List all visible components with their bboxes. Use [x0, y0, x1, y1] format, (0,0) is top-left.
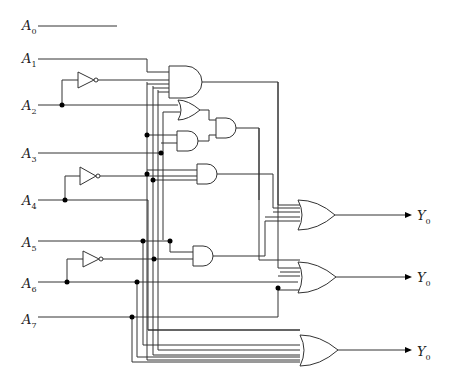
or-gate-4 [300, 335, 338, 366]
or-gate-3 [298, 262, 336, 293]
not-gate-3 [83, 251, 193, 267]
and-gate-1 [169, 66, 202, 98]
and-gate-4 [197, 164, 217, 184]
not-gate-1 [78, 72, 169, 88]
circuit-wires [0, 0, 450, 387]
logic-circuit-diagram: A0 A1 A2 A3 A4 A5 A6 A7 Y0 Y0 Y0 [0, 0, 450, 387]
and-gate-3 [177, 131, 198, 151]
and-gate-5 [193, 246, 213, 266]
and-gate-2 [216, 118, 236, 138]
or-gate-2 [298, 200, 335, 230]
or-gate-1 [178, 100, 200, 120]
